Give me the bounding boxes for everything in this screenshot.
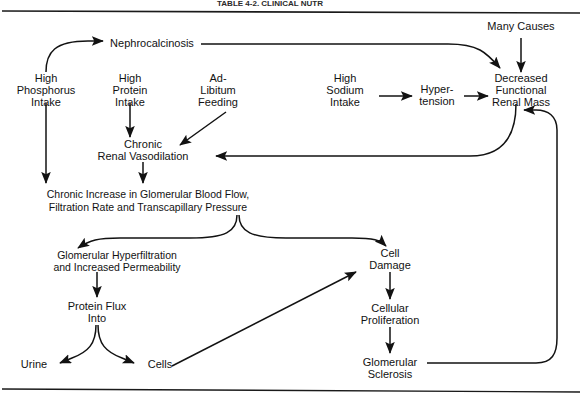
node-protein-flux-line1: Protein Flux <box>68 300 127 312</box>
figure-header-partial: TABLE 4-2. CLINICAL NUTR <box>217 0 323 8</box>
node-cell-damage: Cell Damage <box>369 247 411 271</box>
node-vasodilation-line1: Chronic <box>124 138 162 150</box>
node-protein-flux-into: Protein Flux Into <box>68 300 127 324</box>
node-cell-damage-line1: Cell <box>381 247 400 259</box>
node-nephrocalcinosis: Nephrocalcinosis <box>110 37 194 49</box>
node-high-sodium-line1: High <box>334 72 357 84</box>
figure-page: TABLE 4-2. CLINICAL NUTR <box>0 0 582 409</box>
edge-sclerosis-to-renal-mass <box>427 110 557 363</box>
node-urine: Urine <box>21 358 47 370</box>
node-decreased-functional-renal-mass: Decreased Functional Renal Mass <box>492 72 551 108</box>
node-glomerular-sclerosis: Glomerular Sclerosis <box>363 356 418 380</box>
node-high-protein-intake: High Protein Intake <box>113 72 148 108</box>
node-hyperfiltration-line1: Glomerular Hyperfiltration <box>57 249 177 261</box>
node-chronic-increase-line1: Chronic Increase in Glomerular Blood Flo… <box>47 188 250 200</box>
edge-cells-to-cell-damage <box>172 272 356 366</box>
edge-chronic-increase-to-hyperfiltration <box>78 215 237 248</box>
node-hyperfiltration-line2: and Increased Permeability <box>53 261 181 273</box>
edge-adlibitum-to-vasodilation <box>180 112 226 145</box>
node-chronic-increase-block: Chronic Increase in Glomerular Blood Flo… <box>47 188 250 213</box>
edge-protein-flux-to-urine <box>60 325 96 363</box>
node-high-protein-line2: Protein <box>113 84 148 96</box>
node-ad-libitum-line3: Feeding <box>198 96 238 108</box>
node-high-protein-line1: High <box>119 72 142 84</box>
node-renal-mass-line3: Renal Mass <box>492 96 551 108</box>
node-ad-libitum-line2: Libitum <box>200 84 235 96</box>
node-ad-libitum-line1: Ad- <box>209 72 226 84</box>
node-high-sodium-intake: High Sodium Intake <box>326 72 363 108</box>
node-glomerular-hyperfiltration: Glomerular Hyperfiltration and Increased… <box>53 249 181 273</box>
node-renal-mass-line1: Decreased <box>494 72 547 84</box>
node-high-phosphorus-intake: High Phosphorus Intake <box>17 72 76 108</box>
node-renal-mass-line2: Functional <box>496 84 547 96</box>
node-cellular-proliferation-line2: Proliferation <box>361 314 420 326</box>
node-ad-libitum-feeding: Ad- Libitum Feeding <box>198 72 238 108</box>
node-vasodilation-line2: Renal Vasodilation <box>98 150 189 162</box>
flowchart-diagram: TABLE 4-2. CLINICAL NUTR <box>0 0 582 409</box>
node-chronic-increase-line2: Filtration Rate and Transcapillary Press… <box>49 201 248 213</box>
node-cellular-proliferation: Cellular Proliferation <box>361 302 420 326</box>
node-high-phosphorus-line2: Phosphorus <box>17 84 76 96</box>
edge-renal-mass-to-vasodilation <box>216 104 516 156</box>
edge-protein-flux-to-cells <box>98 325 134 363</box>
node-chronic-renal-vasodilation: Chronic Renal Vasodilation <box>98 138 189 162</box>
frame-bottom-rule <box>2 389 580 392</box>
node-high-phosphorus-line3: Intake <box>31 96 61 108</box>
node-cell-damage-line2: Damage <box>369 259 411 271</box>
node-many-causes: Many Causes <box>487 20 555 32</box>
edge-phosphorus-to-nephrocalcinosis <box>46 41 103 72</box>
node-hypertension-line2: tension <box>419 95 454 107</box>
edge-nephrocalcinosis-to-renal-mass <box>201 44 500 68</box>
node-hypertension: Hyper- tension <box>419 83 454 107</box>
node-cellular-proliferation-line1: Cellular <box>371 302 409 314</box>
frame-top-rule <box>2 11 580 13</box>
node-protein-flux-line2: Into <box>88 312 106 324</box>
node-glomerular-sclerosis-line2: Sclerosis <box>368 368 413 380</box>
edge-chronic-increase-to-cell-damage <box>239 215 386 246</box>
node-high-protein-line3: Intake <box>115 96 145 108</box>
node-high-phosphorus-line1: High <box>35 72 58 84</box>
node-glomerular-sclerosis-line1: Glomerular <box>363 356 418 368</box>
node-high-sodium-line3: Intake <box>330 96 360 108</box>
node-high-sodium-line2: Sodium <box>326 84 363 96</box>
node-hypertension-line1: Hyper- <box>420 83 453 95</box>
node-cells: Cells <box>148 358 173 370</box>
